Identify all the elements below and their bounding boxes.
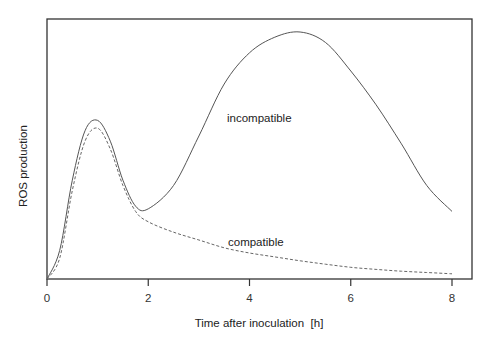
x-tick-label: 4 bbox=[246, 292, 253, 304]
compatible-curve bbox=[47, 128, 452, 279]
y-axis-title: ROS production bbox=[17, 125, 29, 207]
compatible-label: compatible bbox=[228, 236, 284, 248]
x-axis-ticks: 02468 bbox=[44, 279, 455, 304]
x-tick-label: 0 bbox=[44, 292, 50, 304]
x-axis-title: Time after inoculation [h] bbox=[195, 317, 324, 329]
x-tick-label: 8 bbox=[449, 292, 455, 304]
incompatible-label: incompatible bbox=[227, 112, 292, 124]
x-tick-label: 6 bbox=[348, 292, 354, 304]
ros-production-chart: 02468 incompatible compatible Time after… bbox=[0, 0, 493, 346]
x-tick-label: 2 bbox=[145, 292, 151, 304]
